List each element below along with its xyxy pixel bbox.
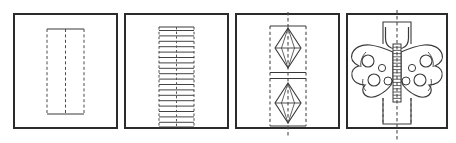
butterfly-craft-diagram bbox=[0, 0, 456, 143]
figure-root bbox=[0, 0, 456, 143]
